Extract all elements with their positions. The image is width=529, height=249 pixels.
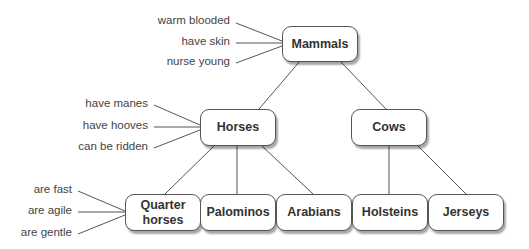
attr-mammals-nurse-young: nurse young xyxy=(130,55,230,67)
attr-quarter-horses-are-fast: are fast xyxy=(0,183,72,195)
attr-horses-can-be-ridden: can be ridden xyxy=(48,140,148,152)
node-arabians: Arabians xyxy=(276,194,352,231)
node-holsteins: Holsteins xyxy=(352,194,428,231)
node-quarter-horses: Quarter horses xyxy=(125,194,201,231)
attr-mammals-have-skin: have skin xyxy=(130,35,230,47)
node-jerseys: Jerseys xyxy=(428,194,504,231)
node-palominos: Palominos xyxy=(200,194,276,231)
attr-mammals-warm-blooded: warm blooded xyxy=(130,14,230,26)
node-cows: Cows xyxy=(351,109,427,146)
node-horses: Horses xyxy=(200,109,276,146)
attr-quarter-horses-are-agile: are agile xyxy=(0,204,72,216)
node-mammals: Mammals xyxy=(282,26,358,62)
attr-horses-have-hooves: have hooves xyxy=(48,119,148,131)
attr-quarter-horses-are-gentle: are gentle xyxy=(0,226,72,238)
attr-horses-have-manes: have manes xyxy=(48,97,148,109)
